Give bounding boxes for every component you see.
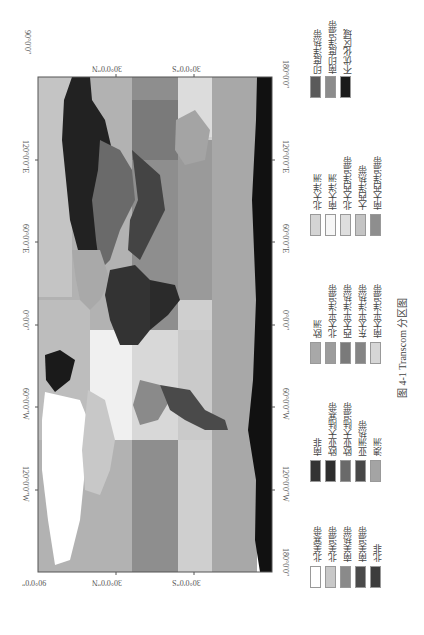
legend-label-atlantic-tropical: 大西洋热带 xyxy=(355,160,368,210)
legend-swatch-south-pacific-temperate xyxy=(370,342,381,364)
legend-label-southern-africa: 南非 xyxy=(310,434,323,456)
legend-label-indian-ocean-tropical: 印度洋热带 xyxy=(310,30,323,74)
legend-swatch-australia xyxy=(370,460,381,482)
legend-swatch-north-america-temperate xyxy=(325,566,336,588)
lat-label-bottom-30s: 30°0′0″S xyxy=(172,578,201,587)
legend-swatch-eurasia-boreal xyxy=(325,460,336,482)
lat-label-top-30s: 30°0′0″S xyxy=(172,64,201,73)
legend-label-north-oceania: 北大洋洲 xyxy=(310,166,323,210)
legend-label-south-indian-ocean-temperate: 南印度洋温带 xyxy=(325,22,338,74)
legend-swatch-south-america-temperate xyxy=(355,566,366,588)
legend-label-eurasia-boreal: 欧亚大陆寒带 xyxy=(325,400,338,456)
west-pacific-region xyxy=(132,100,178,160)
ocean-band-southern-ocean xyxy=(212,77,257,572)
indian-ocean-south-region xyxy=(178,140,212,300)
lon-label-left-0: 0°0′0″ xyxy=(21,310,30,330)
legend-swatch-indian-ocean-tropical xyxy=(310,76,321,98)
lon-label-left-60e: 60°0′0″E xyxy=(21,224,30,253)
legend-swatch-north-africa xyxy=(370,566,381,588)
lon-label-left-120e: 120°0′0″E xyxy=(21,140,30,173)
lon-label-left-180-top: 90°0′0″ xyxy=(23,30,32,54)
lon-label-right-180-bottom: 180°0′0″ xyxy=(281,548,290,576)
legend-swatch-south-atlantic-temperate xyxy=(370,214,381,236)
lat-label-top-30n: 30°0′0″N xyxy=(92,64,122,73)
legend-label-south-oceania: 南大洋洲 xyxy=(325,166,338,210)
legend-swatch-europe xyxy=(310,342,321,364)
legend-swatch-east-pacific-tropical xyxy=(355,342,366,364)
legend-swatch-south-indian-ocean-temperate xyxy=(325,76,336,98)
legend-swatch-north-america-boreal xyxy=(310,566,321,588)
legend-label-south-atlantic-temperate: 南大西洋温带 xyxy=(370,154,383,210)
lon-label-right-60e: 60°0′0″E xyxy=(281,224,290,253)
legend-swatch-southern-africa xyxy=(310,460,321,482)
legend-swatch-south-america-tropical xyxy=(340,566,351,588)
lon-label-right-60w: 60°0′0″W xyxy=(281,388,290,420)
legend-label-south-america-tropical: 南美热带 xyxy=(340,518,353,562)
legend-label-south-pacific-temperate: 南太平洋温带 xyxy=(370,282,383,338)
figure-caption: 图 4-1 Transcom 分区图 xyxy=(394,298,409,398)
legend-label-australia: 澳洲 xyxy=(370,434,383,456)
legend-label-europe: 欧洲 xyxy=(310,316,323,338)
lon-label-right-0: 0°0′0″ xyxy=(281,310,290,330)
legend-label-north-atlantic-temperate: 北大西洋温带 xyxy=(340,154,353,210)
lon-label-left-60w: 60°0′0″W xyxy=(21,388,30,420)
lon-label-right-180-top: 180°0′0″ xyxy=(281,60,290,88)
legend-swatch-atlantic-tropical xyxy=(355,214,366,236)
legend-swatch-west-pacific-tropical xyxy=(340,342,351,364)
legend-label-north-america-temperate: 北美温带 xyxy=(325,518,338,562)
legend-swatch-tropical-asia xyxy=(355,460,366,482)
legend-label-north-america-boreal: 北美寒带 xyxy=(310,518,323,562)
lat-label-bottom-30n: 30°0′0″N xyxy=(92,578,122,587)
legend-swatch-north-oceania xyxy=(310,214,321,236)
legend-label-west-pacific-tropical: 西太平洋热带 xyxy=(340,282,353,338)
legend-label-north-pacific-temperate: 北太平洋温带 xyxy=(325,282,338,338)
lon-label-right-120w: 120°0′0″W xyxy=(281,466,290,502)
legend-swatch-north-pacific-temperate xyxy=(325,342,336,364)
legend-swatch-eurasia-temperate xyxy=(340,460,351,482)
legend-label-eurasia-temperate: 欧亚大陆温带 xyxy=(340,400,353,456)
legend-label-tropical-asia: 亚洲热带 xyxy=(355,412,368,456)
lon-label-left-120w: 120°0′0″W xyxy=(21,466,30,502)
lon-label-right-120e: 120°0′0″E xyxy=(281,140,290,173)
legend-label-north-africa: 北非 xyxy=(370,540,383,562)
legend-label-east-pacific-tropical: 东太平洋热带 xyxy=(355,282,368,338)
legend-label-not-optimized: 不优化区域 xyxy=(340,30,353,74)
legend-swatch-north-atlantic-temperate xyxy=(340,214,351,236)
lat-label-bottom-90: 90°0′0″ xyxy=(22,578,46,587)
legend-swatch-south-oceania xyxy=(325,214,336,236)
legend-swatch-not-optimized xyxy=(340,76,351,98)
legend-label-south-america-temperate: 南美温带 xyxy=(355,518,368,562)
